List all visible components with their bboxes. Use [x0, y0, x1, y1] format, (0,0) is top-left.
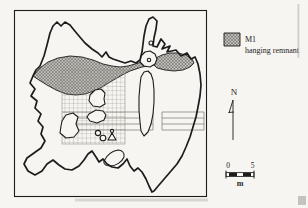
scan-artifact-right-line: [298, 4, 300, 58]
site-plan-figure: M1 hanging remnant N 0 5 m: [0, 0, 308, 208]
feature-circle-3: [110, 129, 113, 132]
scale-max: 5: [251, 161, 255, 170]
scan-artifact-corner-mark: [298, 196, 306, 205]
passage-circle: [147, 58, 150, 61]
scale-bar: 0 5 m: [226, 161, 255, 188]
legend-label: hanging remnant: [245, 46, 300, 55]
north-arrow-line: [229, 100, 235, 140]
legend-swatch: [224, 33, 240, 46]
scale-unit: m: [237, 179, 244, 188]
legend: M1 hanging remnant: [224, 33, 300, 55]
feature-circle-1: [95, 130, 100, 135]
hatch-east-lobe: [152, 53, 194, 71]
legend-code: M1: [245, 35, 256, 44]
extension-row-east: [162, 112, 204, 130]
feature-circle-2: [100, 135, 106, 141]
scan-artifact-bottom-smudge: [75, 199, 208, 202]
scanned-figure-page: M1 hanging remnant N 0 5 m: [0, 0, 308, 208]
north-arrow: N: [229, 87, 238, 140]
scale-bar-segment-1: [229, 173, 237, 176]
passage-outline: [139, 71, 154, 136]
scale-min: 0: [226, 161, 230, 170]
north-label: N: [231, 87, 238, 97]
scale-bar-segment-2: [243, 173, 251, 176]
